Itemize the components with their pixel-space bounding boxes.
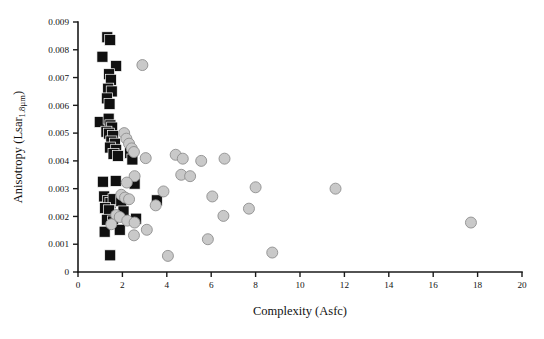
- y-tick-label: 0: [64, 267, 69, 277]
- data-point-circle: [128, 230, 139, 241]
- data-point-square: [110, 175, 121, 186]
- data-point-circle: [243, 203, 254, 214]
- data-point-circle: [250, 182, 261, 193]
- data-point-circle: [121, 177, 132, 188]
- x-tick-label: 0: [76, 280, 81, 290]
- data-point-circle: [177, 153, 188, 164]
- x-tick-label: 18: [473, 280, 483, 290]
- data-point-square: [97, 51, 108, 62]
- data-point-circle: [150, 200, 161, 211]
- data-point-circle: [124, 194, 135, 205]
- data-point-square: [105, 35, 116, 46]
- data-points-layer: [94, 32, 476, 262]
- x-tick-label: 8: [253, 280, 258, 290]
- data-point-circle: [202, 234, 213, 245]
- data-point-square: [97, 176, 108, 187]
- data-point-circle: [128, 147, 139, 158]
- y-tick-label: 0.007: [48, 73, 69, 83]
- data-point-square: [105, 250, 116, 261]
- y-tick-label: 0.001: [48, 239, 69, 249]
- x-tick-label: 20: [517, 280, 527, 290]
- x-tick-label: 10: [295, 280, 305, 290]
- data-point-circle: [219, 153, 230, 164]
- x-axis-ticks: 02468101214161820: [76, 272, 527, 290]
- data-point-circle: [141, 224, 152, 235]
- x-tick-label: 12: [340, 280, 350, 290]
- data-point-circle: [185, 171, 196, 182]
- x-tick-label: 16: [429, 280, 439, 290]
- scatter-plot-figure: 00.0010.0020.0030.0040.0050.0060.0070.00…: [0, 0, 544, 339]
- x-tick-label: 14: [384, 280, 394, 290]
- x-tick-label: 2: [120, 280, 125, 290]
- data-point-circle: [137, 60, 148, 71]
- x-tick-label: 6: [209, 280, 214, 290]
- y-tick-label: 0.005: [48, 128, 69, 138]
- data-point-circle: [465, 217, 476, 228]
- y-tick-label: 0.002: [48, 212, 69, 222]
- y-tick-label: 0.006: [48, 101, 69, 111]
- x-axis-title: Complexity (Asfc): [253, 304, 347, 318]
- y-tick-label: 0.003: [48, 184, 69, 194]
- data-point-circle: [106, 219, 117, 230]
- y-axis-title: Anisotropy (Lsar1.8µm): [11, 91, 27, 203]
- y-axis-ticks: 00.0010.0020.0030.0040.0050.0060.0070.00…: [48, 17, 78, 277]
- data-point-circle: [158, 186, 169, 197]
- data-point-square: [112, 150, 123, 161]
- y-tick-label: 0.004: [48, 156, 69, 166]
- data-point-circle: [267, 247, 278, 258]
- data-point-circle: [129, 217, 140, 228]
- data-point-circle: [218, 210, 229, 221]
- data-point-circle: [140, 153, 151, 164]
- x-tick-label: 4: [165, 280, 170, 290]
- data-point-circle: [162, 250, 173, 261]
- data-point-circle: [196, 155, 207, 166]
- data-point-circle: [330, 183, 341, 194]
- plot-canvas: 00.0010.0020.0030.0040.0050.0060.0070.00…: [0, 0, 544, 339]
- data-point-square: [104, 98, 115, 109]
- data-point-circle: [207, 191, 218, 202]
- y-tick-label: 0.008: [48, 45, 69, 55]
- y-tick-label: 0.009: [48, 17, 69, 27]
